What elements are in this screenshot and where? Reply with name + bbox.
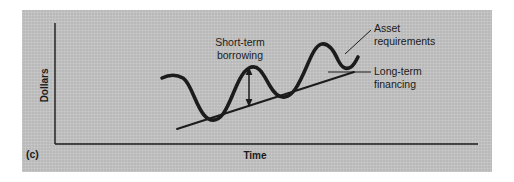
asset-requirements-leader-line (345, 30, 371, 54)
figure-container: Short-term borrowing Asset requirements … (0, 0, 514, 182)
y-axis-title: Dollars (39, 39, 52, 131)
short-term-borrowing-line-2: borrowing (190, 49, 290, 62)
short-term-borrowing-arrow (246, 67, 253, 107)
asset-requirements-annotation: Asset requirements (374, 22, 435, 49)
x-axis-title: Time (205, 150, 305, 163)
long-term-financing-line-1: Long-term (374, 65, 422, 78)
short-term-borrowing-line-1: Short-term (190, 36, 290, 49)
asset-requirements-line-2: requirements (374, 35, 435, 48)
short-term-borrowing-annotation: Short-term borrowing (190, 36, 290, 63)
long-term-financing-line-2: financing (374, 78, 422, 91)
asset-requirements-line-1: Asset (374, 22, 435, 35)
figure-letter-label: (c) (26, 148, 39, 161)
long-term-financing-annotation: Long-term financing (374, 65, 422, 92)
